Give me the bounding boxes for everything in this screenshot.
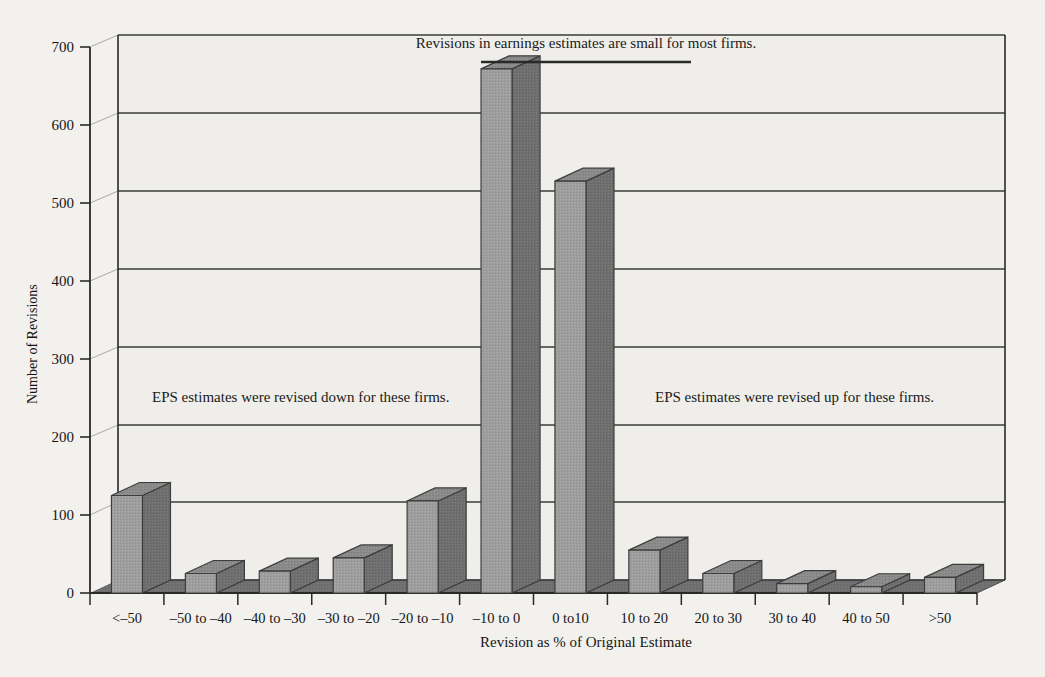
bar — [629, 537, 688, 593]
top-annotation: Revisions in earnings estimates are smal… — [386, 36, 786, 51]
y-tick-label: 0 — [18, 586, 74, 601]
y-tick-label: 700 — [18, 40, 74, 55]
y-tick-label: 500 — [18, 196, 74, 211]
y-axis-ticks — [80, 47, 90, 593]
histogram-3d-canvas — [0, 0, 1045, 677]
y-tick-label: 600 — [18, 118, 74, 133]
right-annotation: EPS estimates were revised up for these … — [655, 390, 934, 405]
chart-figure: 0100200300400500600700 Number of Revisio… — [0, 0, 1045, 677]
y-tick-label: 100 — [18, 508, 74, 523]
bar — [481, 56, 540, 593]
left-annotation: EPS estimates were revised down for thes… — [152, 390, 449, 405]
bar — [555, 168, 614, 593]
bar — [407, 488, 466, 593]
bar — [111, 483, 170, 594]
y-axis-title: Number of Revisions — [26, 284, 40, 404]
y-tick-label: 200 — [18, 430, 74, 445]
x-tick-label: >50 — [891, 611, 989, 626]
x-axis-title: Revision as % of Original Estimate — [386, 635, 786, 650]
x-axis-ticks — [90, 593, 977, 605]
